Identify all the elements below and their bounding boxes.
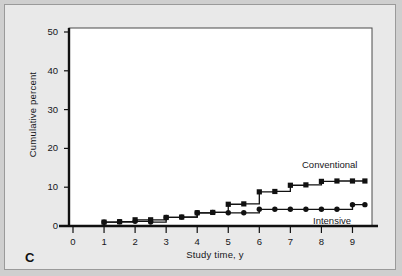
data-point-intensive (319, 207, 324, 212)
y-axis-tick-label: 30 (36, 104, 58, 115)
x-axis-tick-label: 7 (283, 236, 297, 247)
plot-area (69, 28, 372, 226)
data-point-conventional (319, 179, 324, 184)
data-point-conventional (350, 178, 355, 183)
x-axis-tick-label: 0 (66, 236, 80, 247)
panel-letter: C (25, 250, 34, 265)
data-point-conventional (257, 189, 262, 194)
data-point-intensive (210, 210, 215, 215)
data-point-intensive (179, 214, 184, 219)
data-point-conventional (334, 178, 339, 183)
data-point-intensive (272, 207, 277, 212)
data-point-conventional (303, 182, 308, 187)
data-point-conventional (362, 178, 367, 183)
data-point-intensive (195, 210, 200, 215)
data-point-conventional (226, 202, 231, 207)
x-axis-tick-label: 2 (128, 236, 142, 247)
y-axis-tick-label: 50 (36, 26, 58, 37)
data-point-intensive (362, 202, 367, 207)
x-axis-tick-label: 1 (97, 236, 111, 247)
series-label-intensive: Intensive (313, 215, 351, 226)
y-axis-tick-label: 0 (36, 220, 58, 231)
data-point-intensive (148, 219, 153, 224)
chart-plot-svg (5, 5, 397, 271)
x-axis-tick-label: 4 (190, 236, 204, 247)
data-point-intensive (350, 202, 355, 207)
data-point-intensive (303, 207, 308, 212)
data-point-conventional (272, 189, 277, 194)
y-axis-tick-label: 10 (36, 181, 58, 192)
data-point-intensive (334, 207, 339, 212)
data-point-intensive (132, 219, 137, 224)
x-axis-tick-label: 6 (252, 236, 266, 247)
x-axis-title: Study time, y (135, 249, 295, 260)
series-label-conventional: Conventional (302, 159, 357, 170)
data-point-intensive (117, 219, 122, 224)
figure-panel: Cumulative percent Study time, y 0102030… (4, 4, 396, 270)
x-axis-tick-label: 5 (221, 236, 235, 247)
chart-canvas: Cumulative percent Study time, y 0102030… (5, 5, 397, 271)
data-point-intensive (288, 207, 293, 212)
data-point-intensive (257, 207, 262, 212)
x-axis-tick-label: 9 (345, 236, 359, 247)
data-point-conventional (288, 183, 293, 188)
x-axis-tick-label: 3 (159, 236, 173, 247)
data-point-intensive (226, 210, 231, 215)
data-point-intensive (163, 215, 168, 220)
x-axis-tick-label: 8 (314, 236, 328, 247)
y-axis-tick-label: 20 (36, 142, 58, 153)
y-axis-tick-label: 40 (36, 65, 58, 76)
data-point-intensive (101, 219, 106, 224)
data-point-conventional (241, 201, 246, 206)
data-point-intensive (241, 210, 246, 215)
